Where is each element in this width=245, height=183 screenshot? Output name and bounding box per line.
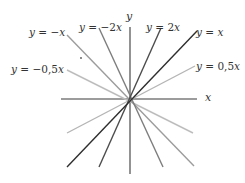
label-y-2x: y = 2x — [146, 22, 180, 33]
label-y-x: y = x — [196, 27, 223, 38]
label-y-neg-0.5x: y = −0,5x — [11, 64, 64, 75]
line-family-diagram: y x y = −x y = −2x y = 2x y = x y = −0,5… — [0, 0, 245, 183]
x-axis-label: x — [205, 92, 211, 103]
y-axis-label: y — [126, 11, 132, 22]
label-y-neg-2x: y = −2x — [79, 22, 122, 33]
label-y-0.5x: y = 0,5x — [196, 61, 240, 72]
label-y-neg-x: y = −x — [29, 27, 65, 38]
stray-dot — [80, 57, 82, 59]
